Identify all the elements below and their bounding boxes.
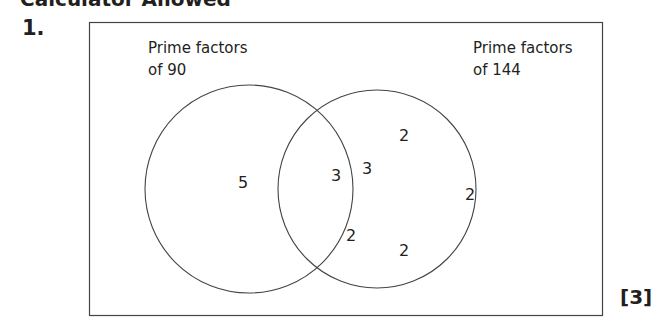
intersection-value: 3 <box>331 166 341 185</box>
right-only-value: 2 <box>465 185 475 204</box>
intersection-value: 2 <box>346 226 356 245</box>
intersection-value: 3 <box>362 159 372 178</box>
right-set-label-line1: Prime factors <box>473 39 573 57</box>
right-only-value: 2 <box>399 126 409 145</box>
venn-diagram: Prime factors of 90 Prime factors of 144… <box>0 0 667 323</box>
left-only-value: 5 <box>238 173 248 192</box>
right-only-value: 2 <box>399 241 409 260</box>
left-circle <box>145 85 353 293</box>
right-set-label-line2: of 144 <box>473 61 521 79</box>
left-set-label-line1: Prime factors <box>148 39 248 57</box>
right-circle <box>278 90 476 288</box>
left-set-label-line2: of 90 <box>148 61 186 79</box>
